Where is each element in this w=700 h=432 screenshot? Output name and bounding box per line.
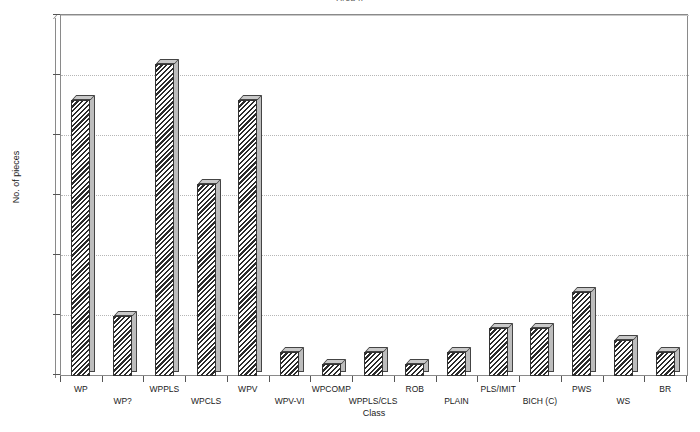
x-tick-mark — [436, 376, 437, 382]
bar[interactable] — [405, 359, 424, 376]
y-tick-mark — [53, 74, 60, 75]
x-tick-mark — [185, 376, 186, 382]
bar-front-face — [614, 340, 633, 376]
x-tick-mark — [561, 376, 562, 382]
x-tick-label: WPCLS — [191, 396, 221, 406]
bar-front-face — [113, 316, 132, 376]
bar-front-face — [364, 352, 383, 376]
x-tick-label: WP? — [113, 396, 131, 406]
bar-side-face — [508, 324, 513, 372]
bar[interactable] — [614, 335, 633, 376]
x-tick-mark — [394, 376, 395, 382]
bar[interactable] — [364, 347, 383, 376]
y-axis-title: No. of pieces — [11, 107, 21, 247]
x-tick-label: WPV — [238, 384, 257, 394]
bar-front-face — [656, 352, 675, 376]
x-tick-mark — [60, 376, 61, 382]
bar[interactable] — [197, 179, 216, 376]
y-tick-mark — [53, 14, 60, 15]
bar[interactable] — [155, 59, 174, 376]
bar-side-face — [90, 96, 95, 372]
bar-top-face — [364, 347, 388, 352]
y-tick-mark — [53, 374, 60, 375]
bar[interactable] — [238, 95, 257, 376]
x-tick-mark — [102, 376, 103, 382]
x-tick-label: WPPLS — [149, 384, 179, 394]
bar-front-face — [405, 364, 424, 376]
y-tick-mark — [53, 254, 60, 255]
bar-front-face — [238, 100, 257, 376]
bar[interactable] — [489, 323, 508, 376]
bar[interactable] — [71, 95, 90, 376]
bar-side-face — [549, 324, 554, 372]
bar-top-face — [656, 347, 680, 352]
x-tick-mark — [269, 376, 270, 382]
x-tick-label: PLAIN — [444, 396, 469, 406]
x-tick-label: WS — [617, 396, 631, 406]
bar-side-face — [633, 336, 638, 372]
x-tick-mark — [310, 376, 311, 382]
x-tick-mark — [477, 376, 478, 382]
bar[interactable] — [280, 347, 299, 376]
x-tick-label: PWS — [572, 384, 591, 394]
y-axis: No. of pieces 051015202530 — [0, 0, 60, 432]
x-tick-mark — [644, 376, 645, 382]
bar-side-face — [591, 288, 596, 372]
bars-layer — [60, 14, 688, 376]
bar-front-face — [280, 352, 299, 376]
bar-side-face — [257, 96, 262, 372]
bar-front-face — [447, 352, 466, 376]
y-tick-mark — [53, 134, 60, 135]
x-tick-label: BR — [659, 384, 671, 394]
y-tick-mark — [53, 314, 60, 315]
x-tick-label: BICH (C) — [523, 396, 557, 406]
bar[interactable] — [447, 347, 466, 376]
x-axis-title: Class — [60, 408, 688, 418]
x-tick-label: WPPLS/CLS — [349, 396, 398, 406]
bar-front-face — [572, 292, 591, 376]
bar-front-face — [489, 328, 508, 376]
bar[interactable] — [530, 323, 549, 376]
bar-side-face — [132, 312, 137, 372]
x-tick-label: WPV-VI — [275, 396, 305, 406]
bar-front-face — [197, 184, 216, 376]
x-tick-label: ROB — [406, 384, 424, 394]
bar-side-face — [174, 60, 179, 372]
chart-title: Area II — [0, 0, 700, 1]
bar-front-face — [322, 364, 341, 376]
x-tick-label: PLS/IMIT — [480, 384, 515, 394]
bar-top-face — [197, 179, 221, 184]
x-tick-label: WP — [74, 384, 88, 394]
bar[interactable] — [113, 311, 132, 376]
bar-front-face — [71, 100, 90, 376]
y-tick-mark — [53, 194, 60, 195]
bar-top-face — [489, 323, 513, 328]
x-tick-label: WPCOMP — [312, 384, 351, 394]
bar-front-face — [155, 64, 174, 376]
x-tick-mark — [603, 376, 604, 382]
x-tick-mark — [519, 376, 520, 382]
bar[interactable] — [322, 359, 341, 376]
bar-side-face — [216, 180, 221, 372]
bar[interactable] — [656, 347, 675, 376]
x-tick-mark — [686, 376, 687, 382]
x-tick-mark — [352, 376, 353, 382]
x-tick-mark — [143, 376, 144, 382]
bar[interactable] — [572, 287, 591, 376]
x-tick-mark — [227, 376, 228, 382]
bar-front-face — [530, 328, 549, 376]
x-axis: Class WPWP?WPPLSWPCLSWPVWPV-VIWPCOMPWPPL… — [60, 376, 688, 432]
